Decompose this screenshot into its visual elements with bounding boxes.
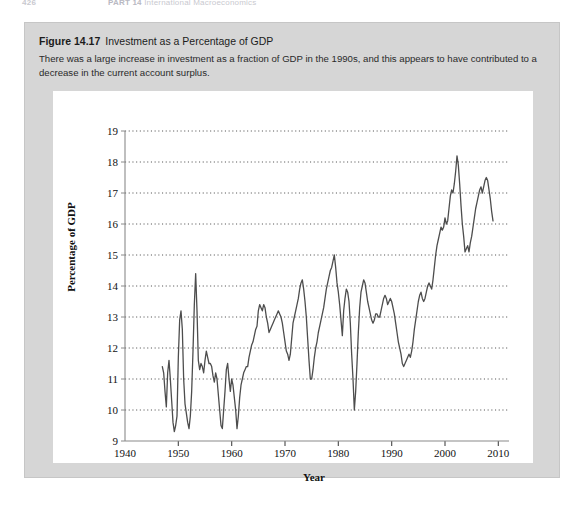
y-tick-label-13: 13 <box>107 311 119 323</box>
y-tick-label-15: 15 <box>107 249 119 261</box>
x-tick-label-1940: 1940 <box>114 447 137 459</box>
x-tick-label-1980: 1980 <box>327 447 350 459</box>
x-tick-marks-group <box>178 441 498 446</box>
y-tick-labels-group: 910111213141516171819 <box>107 125 125 447</box>
running-head-title: International Macroeconomics <box>144 0 256 7</box>
x-tick-label-1950: 1950 <box>167 447 190 459</box>
figure-caption: There was a large increase in investment… <box>39 52 547 79</box>
y-tick-label-17: 17 <box>107 187 119 199</box>
figure-title-text: Investment as a Percentage of GDP <box>100 35 273 47</box>
x-tick-label-1960: 1960 <box>221 447 244 459</box>
x-tick-label-2010: 2010 <box>487 447 510 459</box>
x-tick-label-2000: 2000 <box>434 447 457 459</box>
data-series-line <box>162 156 493 432</box>
y-axis-label: Percentage of GDP <box>65 177 77 317</box>
chart-plot-area: 910111213141516171819 194019501960197019… <box>53 91 533 463</box>
y-tick-label-12: 12 <box>107 342 118 354</box>
y-tick-label-10: 10 <box>107 404 119 416</box>
figure-title: Figure 14.17Investment as a Percentage o… <box>39 35 273 47</box>
page-folio: 426 <box>22 0 36 7</box>
y-tick-label-18: 18 <box>107 156 119 168</box>
x-tick-labels-group: 19401950196019701980199020002010 <box>114 447 510 459</box>
gridlines-group <box>125 131 509 410</box>
line-chart-svg: 910111213141516171819 194019501960197019… <box>53 91 533 463</box>
x-axis-label: Year <box>125 471 503 483</box>
chart-panel: 910111213141516171819 194019501960197019… <box>53 91 533 463</box>
y-tick-label-19: 19 <box>107 125 119 137</box>
x-tick-label-1970: 1970 <box>274 447 297 459</box>
running-head: PART 14 International Macroeconomics <box>108 0 256 7</box>
y-tick-label-9: 9 <box>113 435 119 447</box>
y-tick-label-14: 14 <box>107 280 119 292</box>
running-head-part: PART 14 <box>108 0 142 7</box>
y-tick-label-11: 11 <box>107 373 118 385</box>
figure-number-label: Figure 14.17 <box>39 35 100 47</box>
figure-box: Figure 14.17Investment as a Percentage o… <box>24 22 560 478</box>
x-tick-label-1990: 1990 <box>381 447 404 459</box>
y-tick-label-16: 16 <box>107 218 119 230</box>
page-header: 426 PART 14 International Macroeconomics <box>0 0 586 11</box>
